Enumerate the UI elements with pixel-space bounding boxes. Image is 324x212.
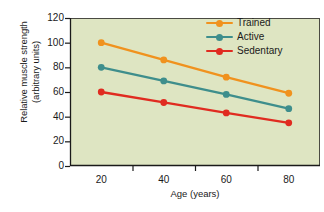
x-tick-label-60: 60 xyxy=(206,175,246,185)
y-axis-title-line-2: (arbitrary units) xyxy=(30,0,42,152)
x-tick-label-20: 20 xyxy=(81,175,121,185)
legend-item-trained: Trained xyxy=(206,16,318,30)
legend-marker-icon xyxy=(206,18,233,28)
x-axis-title: Age (years) xyxy=(70,189,320,199)
legend-item-active: Active xyxy=(206,30,318,44)
legend-marker-icon xyxy=(206,46,233,56)
chart-legend: TrainedActiveSedentary xyxy=(206,16,318,58)
legend-item-sedentary: Sedentary xyxy=(206,44,318,58)
chart-figure: 020406080100120 20406080 Relative muscle… xyxy=(0,0,324,212)
x-tick-label-40: 40 xyxy=(144,175,184,185)
y-axis-title-line-1: Relative muscle strength xyxy=(18,0,30,152)
legend-label: Active xyxy=(233,32,264,42)
y-axis-title: Relative muscle strength (arbitrary unit… xyxy=(18,0,48,152)
x-tick-label-80: 80 xyxy=(269,175,309,185)
legend-marker-icon xyxy=(206,32,233,42)
legend-label: Trained xyxy=(233,18,271,28)
legend-label: Sedentary xyxy=(233,46,283,56)
